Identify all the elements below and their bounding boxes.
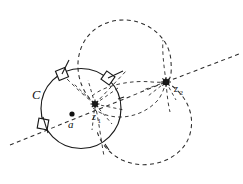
label-point-z2: z 2: [173, 83, 184, 97]
marker-left: [37, 117, 49, 133]
dashed-spur-z1-upright: [95, 88, 118, 104]
label-point-a: a: [68, 118, 74, 130]
label-point-z1-base: z: [91, 111, 96, 122]
label-point-z1-subscript: 1: [98, 117, 102, 125]
label-curve-c: C: [32, 88, 41, 102]
geometry-figure: C a z 1 z 2: [0, 0, 243, 184]
figure-root: C a z 1 z 2: [0, 0, 243, 184]
dashed-ray-to-upper-right: [166, 54, 239, 82]
point-a-dot: [69, 111, 74, 116]
point-z1-star: [91, 100, 100, 109]
dashed-spur-below-z2: [166, 82, 170, 112]
dashed-loop-top: [78, 20, 171, 104]
label-point-z2-subscript: 2: [180, 89, 184, 97]
marker-square-shape: [37, 118, 49, 130]
dashed-arc-lower-mid: [93, 82, 166, 117]
dashed-spur-z1-up: [88, 80, 95, 104]
marker-top-left: [55, 60, 69, 81]
label-point-z2-base: z: [173, 83, 178, 94]
dashed-arc-upper-mid: [92, 82, 166, 96]
dashed-spur-above-z2: [163, 40, 166, 82]
point-z2-star: [161, 77, 171, 87]
